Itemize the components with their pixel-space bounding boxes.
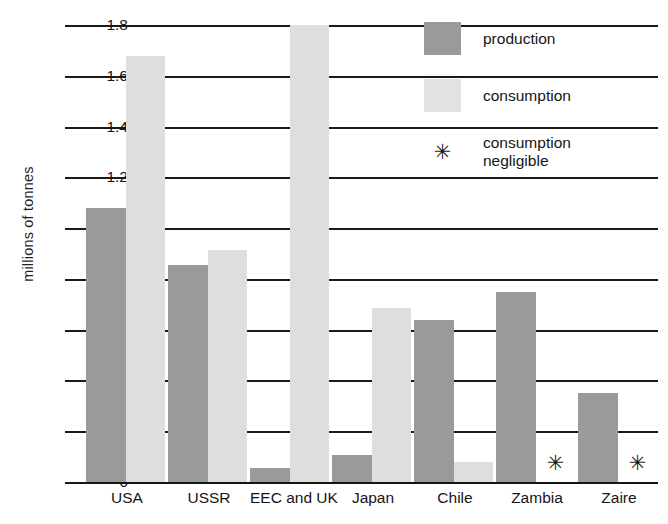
bar-usa-consumption	[126, 56, 165, 483]
x-axis-label-chile: Chile	[414, 489, 496, 507]
negligible-marker-zaire: ✳	[618, 453, 657, 474]
bar-ussr-production	[168, 265, 208, 482]
legend-label-consumption: consumption	[483, 87, 571, 105]
y-axis-title: millions of tonnes	[20, 144, 36, 304]
bar-eec-and-uk-production	[250, 468, 290, 482]
tick-stub-1.4	[65, 127, 77, 129]
x-axis-label-japan: Japan	[332, 489, 414, 507]
bar-japan-production	[332, 455, 372, 482]
x-axis-label-usa: USA	[86, 489, 168, 507]
x-axis-label-ussr: USSR	[168, 489, 250, 507]
bar-chile-production	[414, 320, 454, 483]
x-axis-label-zaire: Zaire	[578, 489, 660, 507]
bar-ussr-consumption	[208, 250, 247, 482]
legend-item-consumption-negligible: ✳ consumption negligible	[424, 134, 571, 170]
bar-japan-consumption	[372, 308, 411, 482]
tick-stub-0.6	[65, 330, 77, 332]
legend-label-consumption-negligible: consumption negligible	[483, 134, 571, 170]
bar-zaire-production	[578, 393, 618, 482]
gridline-1.8: 1.8	[77, 25, 658, 27]
bar-zambia-production	[496, 292, 536, 482]
y-tick-label-1.2: 1.2	[82, 168, 128, 186]
bar-chile-consumption	[454, 462, 493, 482]
legend-item-production: production	[424, 22, 555, 55]
legend-swatch-consumption-icon	[424, 79, 461, 112]
legend-asterisk-icon: ✳	[424, 140, 461, 164]
tick-stub-0.4	[65, 380, 77, 382]
tick-stub-0.8	[65, 279, 77, 281]
tick-stub-1.0	[65, 228, 77, 230]
bar-eec-and-uk-consumption	[290, 25, 329, 482]
tick-stub-1.2	[65, 177, 77, 179]
tick-stub-1.6	[65, 76, 77, 78]
y-tick-label-1.6: 1.6	[82, 67, 128, 85]
y-tick-label-1.4: 1.4	[82, 118, 128, 136]
x-axis-label-zambia: Zambia	[496, 489, 578, 507]
tick-stub-0.2	[65, 431, 77, 433]
bar-usa-production	[86, 208, 126, 482]
legend-swatch-production-icon	[424, 22, 461, 55]
tick-stub-0	[65, 482, 77, 484]
legend-label-production: production	[483, 30, 555, 48]
tick-stub-1.8	[65, 25, 77, 27]
gridline-0: 0	[77, 482, 658, 484]
negligible-marker-zambia: ✳	[536, 453, 575, 474]
bar-chart: millions of tonnes 1.8 1.6 1.4 1.2 1.0 0…	[0, 0, 668, 524]
y-tick-label-1.8: 1.8	[82, 16, 128, 34]
x-axis-label-eec-and-uk: EEC and UK	[250, 489, 332, 507]
legend-item-consumption: consumption	[424, 79, 571, 112]
